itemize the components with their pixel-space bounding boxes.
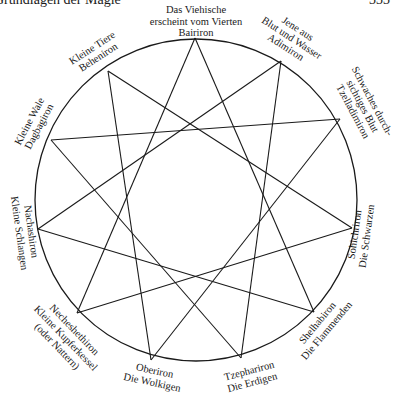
- label-dagbagiron: Kleine Wale Dagbagiron: [12, 95, 56, 151]
- label-nachashiron: Nachashiron Kleine Schlangen: [9, 194, 42, 272]
- star-line-oberiron-beheniron: [108, 71, 151, 360]
- label-tzephariron: Tzephariron Die Erdigen: [223, 358, 279, 394]
- label-beheniron: Kleine Tiere Beheniron: [67, 29, 123, 76]
- label-sohichriron: Sohichriron Die Schwarzen: [345, 201, 377, 268]
- label-oberiron: Oberiron Die Wolkigen: [123, 359, 185, 394]
- svg-text:Das Viehische: Das Viehische: [166, 4, 226, 15]
- star-line-adimiron-tzephariron: [241, 61, 281, 358]
- label-shelhabiron: Shelhabiron Die Flammenden: [290, 291, 355, 362]
- label-bairiron: Das Viehische erscheint vom Vierten Bair…: [150, 4, 243, 38]
- label-tzelladimiron: Schwaches durch- sichtiges Blut Tzelladi…: [330, 65, 395, 149]
- star-line-necheshethiron-bairiron: [77, 38, 195, 313]
- star-line-sohichriron-necheshethiron: [77, 228, 352, 313]
- star-line-dagbagiron-tzelladimiron: [51, 119, 340, 140]
- svg-text:erscheint vom Vierten: erscheint vom Vierten: [150, 16, 243, 27]
- svg-text:Bairiron: Bairiron: [179, 27, 215, 38]
- star-line-shelhabiron-nachashiron: [38, 229, 314, 312]
- star-diagram: Das Viehische erscheint vom Vierten Bair…: [0, 0, 398, 403]
- star-line-nachashiron-adimiron: [38, 61, 281, 229]
- star-lines: [38, 38, 352, 360]
- label-adimiron: Jene aus Blut und Wasser Adimiron: [254, 5, 330, 71]
- label-necheshethiron: Necheshethiron Kleine Kupferkessel (oder…: [23, 295, 109, 382]
